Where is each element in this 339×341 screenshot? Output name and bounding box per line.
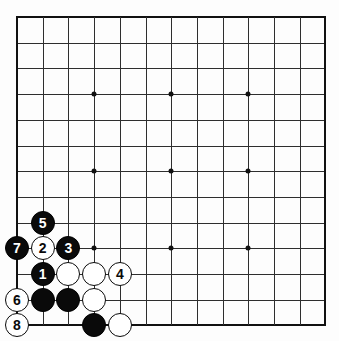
star-point (246, 169, 251, 174)
stone-black[interactable] (82, 313, 106, 337)
grid-line-vertical (197, 17, 198, 325)
stone-numbered-5[interactable]: 5 (31, 211, 55, 235)
grid-line-vertical (274, 17, 275, 325)
stone-black[interactable] (31, 288, 55, 312)
stone-move-number: 6 (13, 293, 21, 307)
stone-move-number: 8 (13, 318, 21, 332)
star-point (169, 169, 174, 174)
grid-line-vertical (300, 17, 301, 325)
stone-numbered-4[interactable]: 4 (108, 262, 132, 286)
stone-numbered-7[interactable]: 7 (5, 236, 29, 260)
star-point (169, 246, 174, 251)
stone-numbered-1[interactable]: 1 (31, 262, 55, 286)
star-point (169, 92, 174, 97)
stone-white[interactable] (108, 313, 132, 337)
star-point (92, 246, 97, 251)
stone-move-number: 3 (64, 241, 72, 255)
stone-numbered-2[interactable]: 2 (31, 236, 55, 260)
grid-line-vertical (146, 17, 147, 325)
stone-black[interactable] (56, 288, 80, 312)
board-edge-vertical (324, 16, 326, 326)
stone-numbered-3[interactable]: 3 (56, 236, 80, 260)
star-point (92, 169, 97, 174)
grid-line-vertical (223, 17, 224, 325)
star-point (92, 92, 97, 97)
stone-move-number: 7 (13, 241, 21, 255)
stone-move-number: 1 (39, 267, 47, 281)
stone-numbered-8[interactable]: 8 (5, 313, 29, 337)
stone-move-number: 4 (116, 267, 124, 281)
stone-white[interactable] (56, 262, 80, 286)
stone-move-number: 5 (39, 216, 47, 230)
go-diagram: 57231468 (0, 0, 339, 341)
stone-move-number: 2 (39, 241, 47, 255)
star-point (246, 246, 251, 251)
board-edge-vertical (16, 16, 18, 326)
stone-white[interactable] (82, 288, 106, 312)
stone-numbered-6[interactable]: 6 (5, 288, 29, 312)
go-board[interactable]: 57231468 (0, 0, 339, 341)
stone-white[interactable] (82, 262, 106, 286)
star-point (246, 92, 251, 97)
